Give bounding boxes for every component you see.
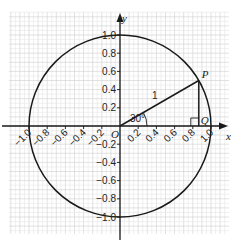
x-tick-label: 1.0 <box>198 126 216 144</box>
angle-label: 30° <box>130 113 145 124</box>
x-axis-arrow-icon <box>219 123 228 130</box>
y-tick-label: 0.4 <box>102 84 116 95</box>
x-axis-label: x <box>225 130 231 142</box>
origin-label: O <box>111 128 119 140</box>
y-tick-label: 0.8 <box>102 48 116 59</box>
x-tick-label: 0.6 <box>161 126 179 144</box>
unit-circle-diagram: −1.0−0.8−0.6−0.4−0.20.20.40.60.81.01.00.… <box>0 0 233 247</box>
diagram-canvas: −1.0−0.8−0.6−0.4−0.20.20.40.60.81.01.00.… <box>0 0 233 247</box>
y-tick-label: −0.2 <box>96 139 116 150</box>
x-tick-label: −0.6 <box>48 126 70 148</box>
y-tick-label: −0.8 <box>96 193 116 204</box>
x-tick-label: 0.8 <box>180 126 198 144</box>
y-tick-label: 1.0 <box>102 30 116 41</box>
y-tick-label: −0.4 <box>96 157 116 168</box>
y-tick-label: 0.2 <box>102 102 116 113</box>
hypotenuse-label: 1 <box>152 90 158 101</box>
y-tick-label: 0.6 <box>102 66 116 77</box>
y-tick-label: −0.6 <box>96 175 116 186</box>
y-axis-label: y <box>121 12 127 24</box>
x-tick-label: 0.4 <box>143 126 161 144</box>
x-tick-label: −0.4 <box>66 126 88 148</box>
x-tick-label: −0.8 <box>30 126 52 148</box>
x-tick-label: 0.2 <box>125 126 143 144</box>
grid <box>9 12 229 234</box>
point-q-label: Q <box>201 114 209 126</box>
point-p-label: P <box>201 68 209 80</box>
y-tick-label: −1.0 <box>96 212 116 223</box>
